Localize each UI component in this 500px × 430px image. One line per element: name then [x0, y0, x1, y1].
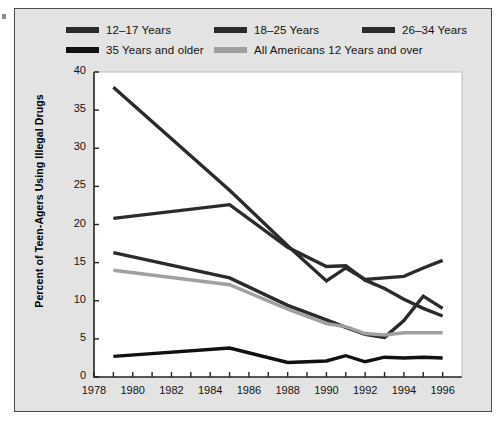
x-tick-label: 1992	[345, 384, 385, 396]
x-tick-label: 1996	[423, 384, 463, 396]
legend-row-1: 12–17 Years 18–25 Years 26–34 Years	[66, 20, 486, 40]
x-tick-label: 1990	[306, 384, 346, 396]
legend-label-12-17: 12–17 Years	[106, 24, 171, 36]
x-tick-label: 1982	[151, 384, 191, 396]
y-axis-title: Percent of Teen-Agers Using Illegal Drug…	[33, 76, 45, 326]
x-tick-label: 1988	[268, 384, 308, 396]
legend-item-12-17: 12–17 Years	[66, 24, 214, 36]
y-tick-label: 30	[60, 140, 86, 152]
x-tick-label: 1984	[190, 384, 230, 396]
legend-item-26-34: 26–34 Years	[362, 24, 467, 36]
y-tick-label: 40	[60, 64, 86, 76]
x-tick-label: 1978	[74, 384, 114, 396]
legend-item-all-americans: All Americans 12 Years and over	[214, 44, 423, 56]
y-tick-label: 25	[60, 178, 86, 190]
y-tick-label: 0	[60, 369, 86, 381]
x-tick-label: 1994	[384, 384, 424, 396]
y-tick-label: 20	[60, 217, 86, 229]
legend-swatch-all-americans-icon	[214, 47, 247, 53]
legend-item-18-25: 18–25 Years	[214, 24, 362, 36]
y-tick-label: 15	[60, 255, 86, 267]
x-tick-label: 1986	[229, 384, 269, 396]
corner-speck	[2, 14, 6, 19]
legend-label-all-americans: All Americans 12 Years and over	[254, 44, 423, 56]
legend-item-35-older: 35 Years and older	[66, 44, 214, 56]
y-tick-label: 35	[60, 102, 86, 114]
y-tick-label: 10	[60, 293, 86, 305]
legend-swatch-26-34-icon	[362, 27, 395, 33]
legend-row-2: 35 Years and older All Americans 12 Year…	[66, 40, 486, 60]
legend-label-35-older: 35 Years and older	[106, 44, 204, 56]
legend-label-18-25: 18–25 Years	[254, 24, 319, 36]
legend-swatch-12-17-icon	[66, 27, 99, 33]
legend-swatch-35-older-icon	[66, 47, 99, 53]
chart-screenshot: 12–17 Years 18–25 Years 26–34 Years 35 Y…	[0, 0, 500, 430]
chart-legend: 12–17 Years 18–25 Years 26–34 Years 35 Y…	[66, 20, 486, 60]
x-tick-label: 1980	[113, 384, 153, 396]
y-tick-label: 5	[60, 331, 86, 343]
legend-label-26-34: 26–34 Years	[402, 24, 467, 36]
legend-swatch-18-25-icon	[214, 27, 247, 33]
